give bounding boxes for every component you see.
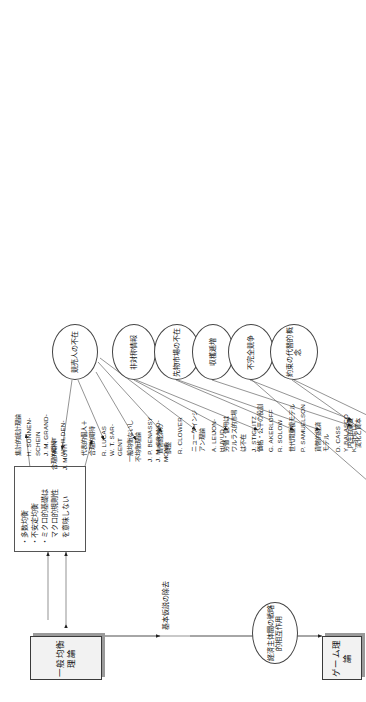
author: SCHEIN xyxy=(34,414,42,456)
leaf-labour-credit-concept2: ワルラス的市場 xyxy=(230,410,238,452)
leaf-labour-credit-concept3: は不在 xyxy=(239,410,247,452)
leaf-endogenous-growth: 内生的需要 変化と資本 P. ROMER xyxy=(346,417,366,448)
author: A. LEIJON- xyxy=(210,410,218,452)
terminal-game-theory-label: ゲーム理論 xyxy=(331,637,352,679)
author: W. T. SAR- xyxy=(108,420,116,456)
ellipse-imperfect-competition[interactable]: 不完全競争 xyxy=(228,324,274,380)
panel-line-3: マクロ的規則性 xyxy=(50,473,60,545)
leaf-representative-agent-authors: R. LUCAS W. T. SAR- GENT xyxy=(100,420,125,456)
leaf-rational-expectations-concept: 合理的期待 xyxy=(50,440,58,470)
leaf-new-keynesian: ニューケインジ アン理論 A. LEIJON- HUVUD xyxy=(190,410,226,452)
leaf-endogenous-growth-concept: 内生的需要 xyxy=(346,417,354,448)
terminal-general-equilibrium[interactable]: 一般均衡理論 xyxy=(30,636,102,680)
panel-line-1: ・不安定均衡 xyxy=(30,473,40,545)
author: G. AKERLOFF xyxy=(267,404,275,452)
panel-line-0: ・多数均衡 xyxy=(20,473,30,545)
diagram-canvas: 一般均衡理論 ゲーム理論 ・多数均衡 ・不安定均衡 ・ミクロ的基礎は マクロ的規… xyxy=(0,0,366,702)
ellipse-auctioneer[interactable]: 競売人の不在 xyxy=(52,324,98,380)
leaf-fairness-concept: 価格・公平の役割 xyxy=(256,404,264,452)
ellipse-asymmetric-information[interactable]: 非対称情報 xyxy=(112,324,156,380)
leaf-representative-agent: 代表的個人＋ 合理的期待 R. LUCAS W. T. SAR- GENT xyxy=(80,420,125,456)
leaf-labour-credit-concept: 労働・信用は xyxy=(222,410,230,452)
author: R. CLOWER xyxy=(176,417,184,454)
terminal-game-theory[interactable]: ゲーム理論 xyxy=(322,636,362,680)
ellipse-commitment-concept[interactable]: 約束の代替的 概念 xyxy=(270,324,318,380)
leaf-labour-credit: 労働・信用は ワルラス的市場 は不在 J. STIGLITZ xyxy=(222,410,258,452)
ellipse-imperfect-competition-label: 不完全競争 xyxy=(247,335,255,370)
leaf-disequilibrium-concept2: 不均衡理論 xyxy=(134,417,142,462)
author: J. MUTH xyxy=(61,440,69,470)
leaf-representative-agent-concept: 代表的個人＋ xyxy=(80,420,88,456)
author: J. P. BENASSY xyxy=(146,417,154,462)
author: H. SONNEN- xyxy=(25,414,33,456)
leaf-rational-expectations-authors: J. MUTH xyxy=(61,440,69,470)
author: P. SAMUELSON xyxy=(299,404,307,452)
spine-caption-upper: 基本仮説の除去 xyxy=(160,579,170,632)
ellipse-commitment-concept-label: 約束の代替的 概念 xyxy=(286,325,303,379)
author: R. LUCAS xyxy=(100,420,108,456)
panel-line-2: ・ミクロ的基礎は xyxy=(40,473,50,545)
ellipse-auctioneer-label: 競売人の不在 xyxy=(71,331,79,373)
author: GENT xyxy=(116,420,124,456)
ellipse-increasing-returns-label: 収穫逓増 xyxy=(209,338,217,366)
author: D. CASS xyxy=(334,414,342,452)
leaf-new-keynesian-concept2: アン理論 xyxy=(198,410,206,452)
ellipse-futures-market-label: 先物市場の不在 xyxy=(173,328,181,377)
leaf-monetary-adjustment: 貨幣経済の 調整 R. CLOWER xyxy=(156,417,184,454)
leaf-disequilibrium-concept: 一般均衡ないし xyxy=(126,417,134,462)
leaf-monetary-model-concept: 貨幣的経済 xyxy=(314,414,322,452)
leaf-overlapping-generations: 世代間重複モデル P. SAMUELSON xyxy=(288,404,308,452)
leaf-overlapping-generations-authors: P. SAMUELSON xyxy=(299,404,307,452)
diagram-rotor: 一般均衡理論 ゲーム理論 ・多数均衡 ・不安定均衡 ・ミクロ的基礎は マクロ的規… xyxy=(0,0,366,702)
spine-caption-lower-node: 経済主体間の戦略的相互作用 xyxy=(252,602,298,664)
leaf-endogenous-growth-concept2: 変化と資本 xyxy=(354,417,362,448)
leaf-monetary-adjustment-concept: 貨幣経済の xyxy=(156,417,164,454)
author: R. SOLOW xyxy=(276,404,284,452)
terminal-general-equilibrium-label: 一般均衡理論 xyxy=(55,637,76,679)
leaf-overlapping-generations-concept: 世代間重複モデル xyxy=(288,404,296,452)
assumption-panel: ・多数均衡 ・不安定均衡 ・ミクロ的基礎は マクロ的規則性 を意味しない xyxy=(14,466,86,552)
panel-line-4: を意味しない xyxy=(61,473,71,545)
leaf-new-keynesian-concept: ニューケインジ xyxy=(190,410,198,452)
ellipse-asymmetric-information-label: 非対称情報 xyxy=(130,335,138,370)
leaf-monetary-adjustment-concept2: 調整 xyxy=(164,417,172,454)
leaf-monetary-adjustment-authors: R. CLOWER xyxy=(176,417,184,454)
leaf-fairness: 価格・公平の役割 G. AKERLOFF R. SOLOW xyxy=(256,404,284,452)
leaf-fairness-authors: G. AKERLOFF R. SOLOW xyxy=(267,404,284,452)
spine-caption-lower-label: 経済主体間の戦略的相互作用 xyxy=(267,603,284,663)
leaf-rational-expectations: 合理的期待 J. MUTH xyxy=(50,440,70,470)
leaf-representative-agent-concept2: 合理的期待 xyxy=(88,420,96,456)
leaf-monetary-model-concept2: モデル xyxy=(322,414,330,452)
leaf-aggregation-concept: 集計的統計理論 xyxy=(14,414,22,456)
